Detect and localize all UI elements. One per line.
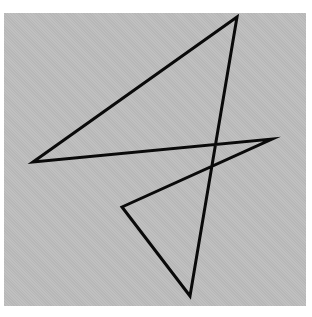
- self-intersecting-polygon: [33, 17, 272, 296]
- figure-canvas: [0, 0, 312, 317]
- polyline-figure: [0, 0, 312, 317]
